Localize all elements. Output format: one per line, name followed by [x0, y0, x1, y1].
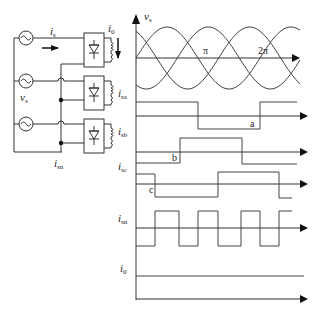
vs-waveform: vs π 2π: [136, 10, 300, 89]
circuit-schematic: is i0 vs isn: [14, 22, 118, 171]
marker-a: a: [250, 118, 255, 129]
isn-waveform: isn: [118, 211, 308, 246]
vertical-axis-arrow-icon: [132, 14, 140, 24]
isb-waveform: b isb: [118, 125, 308, 164]
label-vs: vs: [20, 91, 28, 105]
three-phase-rectifier-diagram: is i0 vs isn vs π 2π a isa: [0, 0, 326, 314]
neutral-bus: [61, 64, 84, 152]
rectifier-load-b: [84, 76, 113, 110]
ac-source-phase-a: [14, 31, 84, 45]
label-isc: isc: [118, 160, 127, 174]
rectifier-load-a: [84, 33, 113, 67]
tick-pi: π: [203, 45, 208, 56]
isc-waveform: c isc: [118, 160, 308, 198]
label-isn: isn: [118, 212, 128, 226]
ac-source-phase-b: [14, 74, 84, 88]
marker-c: c: [149, 184, 154, 195]
label-i0: i0: [108, 22, 115, 36]
junction-dot: [59, 141, 63, 145]
label-isn: isn: [54, 157, 64, 171]
label-i0-axis: i0: [120, 262, 127, 276]
ac-source-phase-c: [14, 117, 84, 131]
rectifier-load-c: [84, 119, 113, 153]
label-isb: isb: [118, 125, 128, 139]
tick-2pi: 2π: [258, 45, 268, 56]
waveform-panel: vs π 2π a isa b isb c isc: [118, 10, 308, 303]
marker-b: b: [172, 152, 177, 163]
junction-dot: [59, 98, 63, 102]
label-vs-axis: vs: [144, 10, 152, 24]
label-isa: isa: [118, 87, 128, 101]
i0-waveform: i0: [120, 262, 308, 303]
label-is: is: [50, 25, 56, 39]
isa-waveform: a isa: [118, 87, 308, 129]
